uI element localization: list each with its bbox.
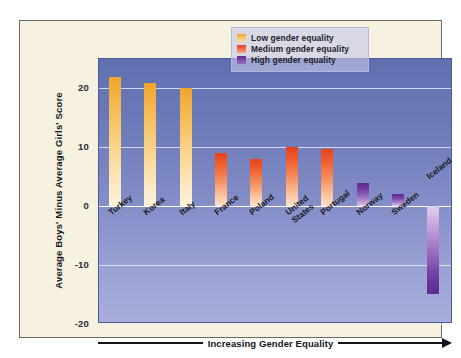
- legend-item: Low gender equality: [237, 33, 362, 43]
- plot-area: TurkeyKoreaItalyFrancePolandUnited State…: [98, 58, 452, 323]
- legend-label: Medium gender equality: [251, 44, 349, 54]
- x-tick-label-iceland: Iceland: [425, 156, 454, 182]
- y-tick-label: -20: [75, 318, 89, 329]
- x-axis-caption: Increasing Gender Equality: [98, 333, 452, 353]
- x-axis-caption-text: Increasing Gender Equality: [208, 338, 334, 349]
- bar-united-states: [286, 147, 298, 206]
- bar-italy: [180, 88, 192, 206]
- legend-label: High gender equality: [251, 55, 336, 65]
- caption-rule-right: [338, 342, 443, 344]
- figure-panel: Average Boys' Minus Average Girls' Score…: [19, 20, 442, 338]
- legend-swatch-icon: [237, 56, 246, 64]
- y-axis-tick-labels: 20100-10-20: [20, 58, 94, 323]
- caption-rule-left: [98, 342, 203, 344]
- bar-turkey: [109, 77, 121, 207]
- legend-swatch-icon: [237, 34, 246, 42]
- y-tick-label: -10: [75, 259, 89, 270]
- gridline--10: [99, 265, 451, 266]
- legend-item: Medium gender equality: [237, 44, 362, 54]
- legend-swatch-icon: [237, 45, 246, 53]
- y-tick-label: 0: [84, 200, 89, 211]
- legend-label: Low gender equality: [251, 33, 334, 43]
- y-tick-label: 20: [78, 82, 89, 93]
- bar-iceland: [427, 206, 439, 294]
- bar-korea: [144, 83, 156, 207]
- gridline--20: [99, 324, 451, 325]
- legend-item: High gender equality: [237, 55, 362, 65]
- y-tick-label: 10: [78, 141, 89, 152]
- arrow-right-icon: [442, 338, 452, 348]
- chart-legend: Low gender equalityMedium gender equalit…: [231, 27, 369, 72]
